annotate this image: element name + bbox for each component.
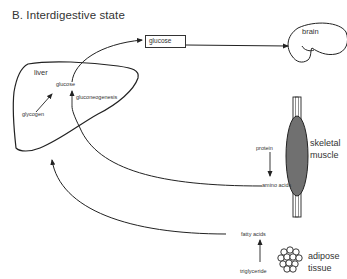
liver-glucose-label: glucose xyxy=(56,81,75,87)
adipose-tissue-label-line1: adipose xyxy=(308,250,340,262)
liver-glucose-to-blood-arrow xyxy=(72,40,142,82)
glycogen-label: glycogen xyxy=(22,111,44,117)
adipose-tissue-shape xyxy=(278,247,302,272)
triglyceride-label: triglyceride xyxy=(240,268,267,274)
skeletal-muscle-shape xyxy=(286,97,308,217)
adipose-tissue-label-line2: tissue xyxy=(308,262,340,274)
amino-acids-to-liver-arrow xyxy=(72,106,262,186)
fatty-acids-to-liver-arrow xyxy=(52,160,226,234)
fatty-acids-label: fatty acids xyxy=(241,231,266,237)
glycogen-to-glucose-arrow xyxy=(36,94,52,112)
skeletal-muscle-label-line1: skeletal xyxy=(310,137,341,149)
adipose-tissue-label: adipose tissue xyxy=(308,250,340,274)
skeletal-muscle-label: skeletal muscle xyxy=(310,137,341,161)
amino-acids-label: amino acids xyxy=(262,182,291,188)
liver-shape xyxy=(13,62,138,151)
skeletal-muscle-label-line2: muscle xyxy=(310,149,341,161)
glucose-to-brain-arrow xyxy=(186,45,288,46)
protein-label: protein xyxy=(256,145,273,151)
gluconeogenesis-label: gluconeogenesis xyxy=(76,94,117,100)
brain-label: brain xyxy=(302,27,319,36)
liver-label: liver xyxy=(34,68,48,77)
blood-glucose-box: glucose xyxy=(145,35,186,48)
